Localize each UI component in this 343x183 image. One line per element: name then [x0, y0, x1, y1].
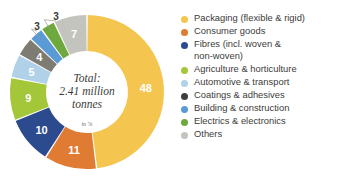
legend-item[interactable]: Coatings & adhesives [181, 89, 343, 101]
legend-item-label: Agriculture & horticulture [194, 63, 297, 75]
legend-color-swatch-icon [181, 119, 188, 126]
slice-value-label: 48 [140, 82, 152, 94]
legend-item[interactable]: Agriculture & horticulture [181, 63, 343, 75]
center-total-label: Total:2.41 milliontonnesin % [59, 72, 115, 127]
legend-item[interactable]: Others [181, 128, 343, 140]
legend-color-swatch-icon [181, 132, 188, 139]
legend-item[interactable]: Consumer goods [181, 25, 343, 37]
legend-item-label: Packaging (flexible & rigid) [194, 12, 305, 24]
slice-value-label: 3 [53, 11, 59, 22]
legend-color-swatch-icon [181, 42, 188, 49]
slice-value-label: 10 [35, 124, 47, 136]
legend-item-label: Building & construction [194, 102, 289, 114]
legend-item-label: Others [194, 128, 222, 140]
legend-color-swatch-icon [181, 29, 188, 36]
center-unit-note: in % [81, 121, 92, 127]
legend-color-swatch-icon [181, 93, 188, 100]
legend-item[interactable]: Building & construction [181, 102, 343, 114]
slice-value-label: 3 [34, 21, 40, 32]
donut-chart-figure: 481110954337 Total:2.41 milliontonnesin … [0, 0, 343, 183]
slice-value-label: 9 [25, 92, 31, 104]
center-total-line: Total: [73, 72, 100, 84]
slice-value-label: 7 [71, 28, 77, 40]
legend-item[interactable]: Fibres (incl. woven & non-woven) [181, 38, 343, 61]
legend-color-swatch-icon [181, 67, 188, 74]
legend-item-label: Coatings & adhesives [194, 89, 285, 101]
slice-value-label: 4 [36, 51, 43, 63]
legend-item-label: Fibres (incl. woven & non-woven) [194, 38, 281, 61]
center-total-line: tonnes [72, 98, 103, 110]
center-total-line: 2.41 million [59, 85, 115, 97]
legend-item-label: Electrics & electronics [194, 115, 286, 127]
legend-item[interactable]: Automotive & transport [181, 76, 343, 88]
legend-item[interactable]: Packaging (flexible & rigid) [181, 12, 343, 24]
chart-legend: Packaging (flexible & rigid)Consumer goo… [181, 12, 343, 141]
slice-value-label: 11 [68, 144, 80, 156]
donut-svg: 481110954337 Total:2.41 milliontonnesin … [0, 0, 175, 183]
legend-color-swatch-icon [181, 80, 188, 87]
donut-plot-area: 481110954337 Total:2.41 milliontonnesin … [0, 0, 175, 183]
legend-item-label: Automotive & transport [194, 76, 289, 88]
slice-value-label: 5 [28, 66, 34, 78]
legend-color-swatch-icon [181, 16, 188, 23]
legend-item[interactable]: Electrics & electronics [181, 115, 343, 127]
legend-color-swatch-icon [181, 106, 188, 113]
legend-item-label: Consumer goods [194, 25, 265, 37]
